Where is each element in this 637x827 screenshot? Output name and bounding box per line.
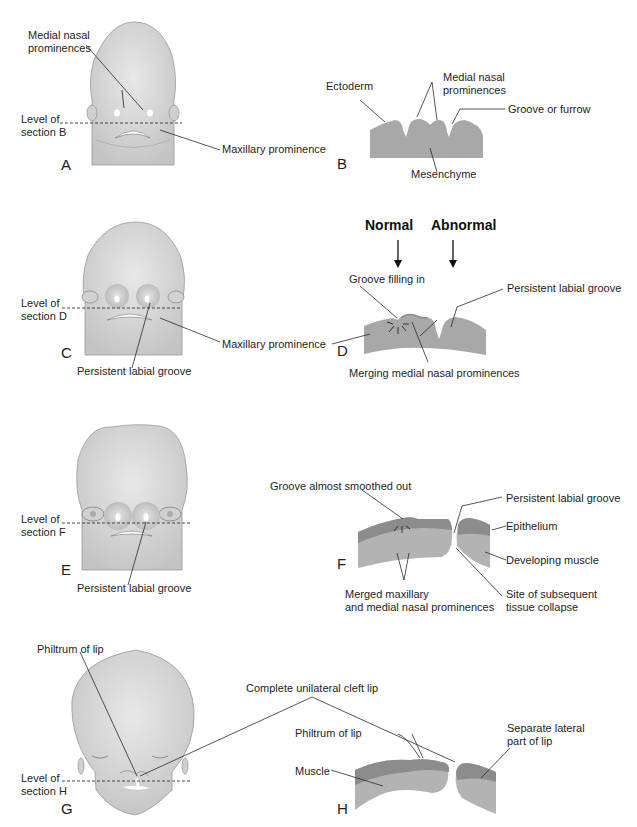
faint-caption-strip xyxy=(0,816,637,827)
label-merging-medial-nasal: Merging medial nasal prominences xyxy=(349,367,520,380)
label-groove-filling: Groove filling in xyxy=(349,273,425,286)
label-maxillary-c: Maxillary prominence xyxy=(222,338,326,351)
panel-letter-h: H xyxy=(337,800,348,817)
label-developing-muscle: Developing muscle xyxy=(506,554,599,567)
label-persistent-groove-c: Persistent labial groove xyxy=(77,365,191,378)
embryo-head-e xyxy=(62,425,192,585)
label-level-section-f: Level of section F xyxy=(21,513,66,539)
label-mesenchyme: Mesenchyme xyxy=(411,168,476,181)
label-persistent-groove-f: Persistent labial groove xyxy=(506,492,620,505)
embryo-head-c xyxy=(62,222,220,368)
label-groove-furrow: Groove or furrow xyxy=(508,103,591,116)
label-medial-nasal-a: Medial nasal prominences xyxy=(28,29,91,55)
label-ectoderm: Ectoderm xyxy=(326,80,373,93)
label-groove-smoothed: Groove almost smoothed out xyxy=(270,480,411,493)
label-level-section-b: Level of section B xyxy=(21,113,66,139)
label-cleft-lip: Complete unilateral cleft lip xyxy=(246,682,378,695)
section-d xyxy=(332,240,503,362)
panel-letter-e: E xyxy=(61,561,71,578)
figure-drawings xyxy=(0,0,637,827)
label-philtrum-g: Philtrum of lip xyxy=(37,643,104,656)
label-persistent-groove-d: Persistent labial groove xyxy=(507,282,621,295)
section-f xyxy=(358,490,506,596)
header-normal: Normal xyxy=(365,217,413,233)
label-medial-nasal-b: Medial nasal prominences xyxy=(443,71,506,97)
label-persistent-groove-e: Persistent labial groove xyxy=(77,582,191,595)
label-epithelium: Epithelium xyxy=(506,520,557,533)
label-tissue-collapse: Site of subsequent tissue collapse xyxy=(506,588,597,614)
panel-letter-f: F xyxy=(337,555,346,572)
header-abnormal: Abnormal xyxy=(431,217,496,233)
panel-letter-g: G xyxy=(61,800,73,817)
panel-letter-c: C xyxy=(61,344,72,361)
label-merged-prominences: Merged maxillary and medial nasal promin… xyxy=(345,588,494,614)
label-philtrum-h: Philtrum of lip xyxy=(295,727,362,740)
label-level-section-h: Level of section H xyxy=(21,772,67,798)
section-h xyxy=(310,697,510,814)
label-maxillary-a: Maxillary prominence xyxy=(222,143,326,156)
panel-letter-b: B xyxy=(337,155,347,172)
label-level-section-d: Level of section D xyxy=(21,297,67,323)
label-separate-lateral: Separate lateral part of lip xyxy=(507,722,585,748)
fetal-head-g xyxy=(62,650,310,815)
label-muscle-h: Muscle xyxy=(295,765,330,778)
panel-letter-d: D xyxy=(337,342,348,359)
panel-letter-a: A xyxy=(61,156,71,173)
